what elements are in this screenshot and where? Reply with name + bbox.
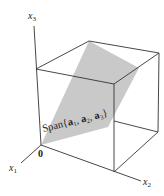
x2-axis-label: x2	[143, 177, 151, 189]
x3-axis-label: x3	[28, 11, 36, 23]
x1-axis-label: x1	[9, 163, 17, 175]
x3-axis	[34, 26, 41, 145]
cube-diagram	[0, 0, 164, 196]
cube-edge-back-bottom	[114, 121, 158, 132]
x2-axis	[41, 145, 141, 181]
origin-label: 0	[38, 149, 43, 159]
cube-edge-bottom-right	[114, 132, 158, 172]
cube-edge-back-right-vertical	[158, 53, 159, 132]
